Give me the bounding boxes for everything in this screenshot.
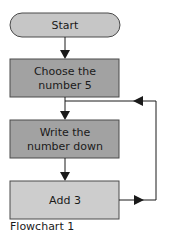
- choose-number-node: Choose the number 5: [10, 59, 119, 97]
- flowchart: Start Choose the number 5 Write the numb…: [0, 0, 170, 234]
- arrow-choose-to-write: [60, 97, 70, 120]
- add-three-node: Add 3: [10, 181, 119, 219]
- write-label-line1: Write the: [40, 126, 91, 139]
- choose-label-line1: Choose the: [34, 65, 96, 78]
- arrow-start-to-choose: [60, 37, 70, 59]
- start-node: Start: [10, 13, 120, 37]
- left-arrowhead-icon: [133, 96, 143, 106]
- figure-caption: Flowchart 1: [10, 220, 74, 233]
- add-label: Add 3: [49, 194, 81, 207]
- write-label-line2: number down: [27, 140, 103, 153]
- choose-label-line2: number 5: [38, 79, 91, 92]
- arrow-write-to-add: [60, 158, 70, 181]
- write-number-node: Write the number down: [10, 120, 119, 158]
- right-arrowhead-icon: [134, 195, 144, 205]
- start-label: Start: [52, 19, 80, 32]
